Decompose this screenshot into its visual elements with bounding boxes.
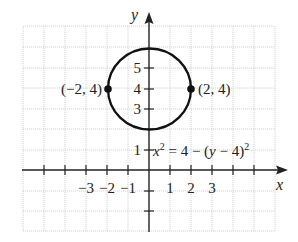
x-tick-label: −2: [99, 180, 115, 196]
circle-equation: x2 = 4 − (y − 4)2: [152, 141, 249, 160]
y-tick-label: 3: [134, 101, 142, 117]
axes: x y −3 −2 −1 1 2 3 1 3 4 5: [22, 6, 288, 232]
y-tick-label: 1: [134, 142, 142, 158]
point-left: [104, 85, 112, 93]
y-tick-label: 4: [134, 81, 142, 97]
coordinate-plane: x y −3 −2 −1 1 2 3 1 3 4 5 (−2, 4) (2, 4…: [0, 0, 298, 242]
x-tick-label: −1: [120, 180, 136, 196]
x-tick-label: 1: [166, 180, 174, 196]
x-tick-label: −3: [78, 180, 94, 196]
point-right: [187, 85, 195, 93]
x-tick-label: 2: [187, 180, 195, 196]
x-axis-label: x: [275, 176, 283, 193]
x-tick-label: 3: [208, 180, 216, 196]
y-tick-label: 5: [134, 60, 142, 76]
point-label-right: (2, 4): [198, 81, 231, 98]
y-axis-label: y: [129, 6, 139, 24]
point-label-left: (−2, 4): [61, 81, 102, 98]
